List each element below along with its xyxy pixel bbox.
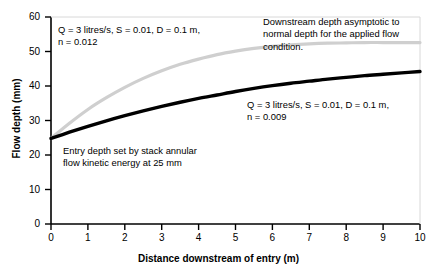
series-layer bbox=[51, 43, 420, 139]
x-tick-label-10: 10 bbox=[410, 232, 430, 243]
x-tick-marks bbox=[51, 224, 420, 230]
annotation-line: flow kinetic energy at 25 mm bbox=[63, 157, 243, 169]
chart-figure: 0 10 20 30 40 50 60 0 1 2 3 4 5 6 7 8 9 … bbox=[0, 0, 437, 272]
y-axis-title: Flow depth (mm) bbox=[11, 49, 22, 189]
annotation-entry-depth-note: Entry depth set by stack annular flow ki… bbox=[63, 145, 243, 170]
x-tick-label-4: 4 bbox=[189, 232, 209, 243]
x-tick-label-2: 2 bbox=[115, 232, 135, 243]
x-tick-label-5: 5 bbox=[226, 232, 246, 243]
annotation-line: Entry depth set by stack annular bbox=[63, 145, 243, 157]
annotation-line: Q = 3 litres/s, S = 0.01, D = 0.1 m, bbox=[247, 99, 427, 111]
x-tick-label-0: 0 bbox=[41, 232, 61, 243]
x-tick-label-3: 3 bbox=[152, 232, 172, 243]
x-tick-label-7: 7 bbox=[299, 232, 319, 243]
annotation-line: Q = 3 litres/s, S = 0.01, D = 0.1 m, bbox=[58, 24, 238, 36]
x-tick-label-6: 6 bbox=[262, 232, 282, 243]
annotation-line: n = 0.009 bbox=[247, 111, 427, 123]
x-axis-title: Distance downstream of entry (m) bbox=[0, 253, 437, 264]
y-tick-label-60: 60 bbox=[18, 11, 40, 22]
annotation-asymptote-note: Downstream depth asymptotic to normal de… bbox=[263, 16, 435, 53]
annotation-line: normal depth for the applied flow bbox=[263, 28, 435, 40]
annotation-upper-curve-parameters: Q = 3 litres/s, S = 0.01, D = 0.1 m, n =… bbox=[58, 24, 238, 49]
x-tick-label-1: 1 bbox=[78, 232, 98, 243]
y-tick-marks bbox=[45, 17, 51, 224]
annotation-line: n = 0.012 bbox=[58, 36, 238, 48]
annotation-lower-curve-parameters: Q = 3 litres/s, S = 0.01, D = 0.1 m, n =… bbox=[247, 99, 427, 124]
annotation-line: Downstream depth asymptotic to bbox=[263, 16, 435, 28]
y-tick-label-0: 0 bbox=[18, 218, 40, 229]
x-tick-label-8: 8 bbox=[336, 232, 356, 243]
annotation-line: condition. bbox=[263, 41, 435, 53]
x-tick-label-9: 9 bbox=[373, 232, 393, 243]
